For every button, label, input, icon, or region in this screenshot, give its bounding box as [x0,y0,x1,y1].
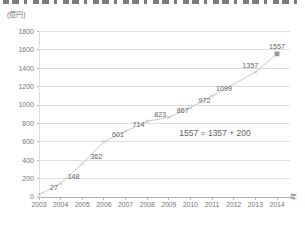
line-chart: 0200400600800100012001400160018002003200… [0,0,305,226]
x-tick-label: 2006 [96,201,111,208]
x-tick-label: 2012 [226,201,241,208]
x-tick-label: 2008 [140,201,155,208]
y-tick-label: 600 [22,138,34,145]
y-tick-label: 200 [22,175,34,182]
x-tick-label: 2007 [118,201,133,208]
data-point-label: 1357 [242,61,258,70]
y-tick-label: 400 [22,157,34,164]
x-tick-label: 2011 [205,201,220,208]
last-point-marker [275,51,280,56]
data-point-label: 823 [154,110,166,119]
y-tick-label: 1200 [18,83,34,90]
chart-screenshot: 0200400600800100012001400160018002003200… [0,0,305,226]
x-tick-label: 2004 [53,201,68,208]
y-tick-label: 800 [22,120,34,127]
data-point-label: 601 [112,130,124,139]
x-tick-label: 2003 [31,201,46,208]
annotation-text: 1557 = 1357 + 200 [179,128,251,138]
data-point-label: 27 [50,183,58,192]
x-axis-unit-label: 年 [290,192,297,201]
y-tick-label: 1000 [18,101,34,108]
x-tick-label: 2005 [75,201,90,208]
y-axis-unit-label: (億円) [7,10,26,19]
data-point-label: 148 [68,172,80,181]
x-tick-label: 2010 [183,201,198,208]
y-tick-label: 1600 [18,46,34,53]
y-tick-label: 1400 [18,65,34,72]
y-tick-label: 0 [30,193,34,200]
x-tick-label: 2009 [161,201,176,208]
data-point-label: 714 [133,120,145,129]
y-tick-label: 1800 [18,28,34,35]
x-tick-label: 2013 [248,201,263,208]
x-tick-label: 2014 [269,201,284,208]
data-point-label: 867 [177,106,189,115]
data-point-label: 1099 [216,84,232,93]
data-point-label: 362 [90,152,102,161]
data-point-label: 972 [198,96,210,105]
data-point-label: 1557 [269,42,285,51]
